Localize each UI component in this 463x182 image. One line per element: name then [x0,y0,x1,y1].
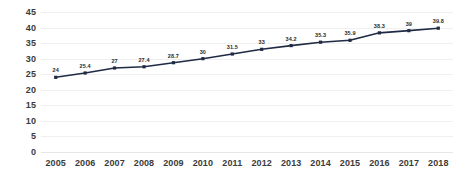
data-point-marker [290,44,293,47]
y-axis-tick-label: 5 [31,131,36,141]
data-point-marker [142,65,145,68]
y-axis-tick-label: 35 [26,38,36,48]
x-axis-tick-label: 2013 [281,158,301,168]
data-point-marker [231,52,234,55]
y-axis-tick-label: 15 [26,100,36,110]
data-point-marker [319,41,322,44]
data-point-marker [113,66,116,69]
y-axis-tick-label: 25 [26,69,36,79]
data-point-label: 24 [53,67,59,73]
x-axis-tick-label: 2014 [310,158,330,168]
x-axis-tick-label: 2016 [369,158,389,168]
x-axis-tick-label: 2009 [163,158,183,168]
data-point-label: 39.8 [433,18,444,24]
x-axis-tick-label: 2006 [75,158,95,168]
data-point-label: 28.7 [168,53,179,59]
y-axis-tick-label: 10 [26,116,36,126]
data-point-label: 35.9 [344,30,355,36]
data-point-label: 30 [200,49,206,55]
y-axis-tick-label: 20 [26,85,36,95]
x-axis-tick-label: 2008 [134,158,154,168]
data-point-marker [260,48,263,51]
data-point-marker [172,61,175,64]
data-point-label: 34.2 [286,36,297,42]
data-point-label: 27.4 [138,57,149,63]
gridline [41,152,453,153]
x-axis-tick-label: 2007 [104,158,124,168]
data-point-marker [437,27,440,30]
series-line [41,12,453,152]
data-point-marker [201,57,204,60]
y-axis-tick-label: 0 [31,147,36,157]
x-axis-tick-label: 2012 [251,158,271,168]
data-point-label: 33 [259,39,265,45]
line-chart: 051015202530354045 2425.42727.428.73031.… [0,0,463,182]
data-point-marker [54,76,57,79]
series-polyline [56,28,439,77]
y-axis-tick-label: 30 [26,54,36,64]
data-point-label: 31.5 [227,44,238,50]
data-point-marker [378,31,381,34]
x-axis-tick-label: 2015 [340,158,360,168]
y-axis-tick-label: 40 [26,23,36,33]
x-axis-tick-label: 2005 [45,158,65,168]
plot-area: 2425.42727.428.73031.53334.235.335.938.3… [41,12,453,152]
data-point-label: 25.4 [80,63,91,69]
x-axis-tick-label: 2011 [222,158,242,168]
x-axis: 2005200620072008200920102011201220132014… [41,158,453,176]
data-point-label: 38.3 [374,23,385,29]
data-point-marker [407,29,410,32]
data-point-label: 39 [406,21,412,27]
y-axis: 051015202530354045 [0,12,36,152]
data-point-label: 27 [111,58,117,64]
y-axis-tick-label: 45 [26,7,36,17]
x-axis-tick-label: 2018 [428,158,448,168]
x-axis-tick-label: 2017 [399,158,419,168]
data-point-marker [84,71,87,74]
x-axis-tick-label: 2010 [193,158,213,168]
data-point-marker [348,39,351,42]
data-point-label: 35.3 [315,32,326,38]
